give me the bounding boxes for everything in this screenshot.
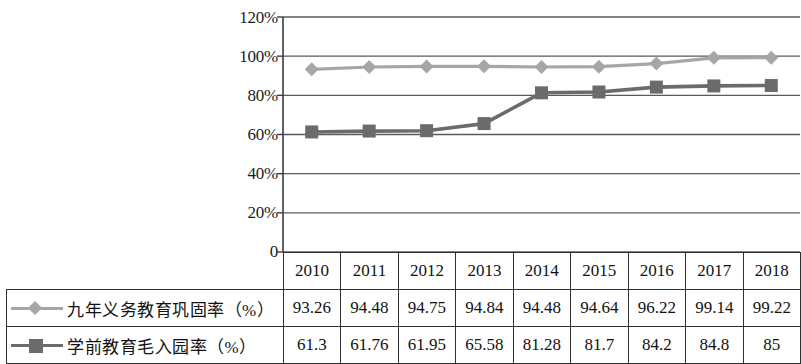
table-year-header: 2015 xyxy=(571,253,628,290)
data-point-square xyxy=(707,79,720,92)
data-point-diamond xyxy=(420,59,434,73)
legend-square-marker-icon xyxy=(11,336,63,354)
table-row: 学前教育毛入园率（%） 61.3 61.76 61.95 65.58 81.28… xyxy=(7,327,801,364)
data-point-diamond xyxy=(535,60,549,74)
table-cell-value: 94.84 xyxy=(456,290,513,327)
data-point-diamond xyxy=(649,57,663,71)
gridlines-group xyxy=(283,17,800,252)
data-point-square xyxy=(363,125,376,138)
data-point-diamond xyxy=(362,60,376,74)
table-cell-value: 85 xyxy=(743,327,801,364)
legend-diamond-marker-icon xyxy=(11,299,63,317)
data-point-diamond xyxy=(707,51,721,65)
table-cell-value: 99.22 xyxy=(743,290,801,327)
data-point-square xyxy=(765,79,778,92)
data-point-square xyxy=(478,117,491,130)
table-year-header: 2011 xyxy=(341,253,398,290)
data-point-diamond xyxy=(764,51,778,65)
table-cell-value: 61.76 xyxy=(341,327,398,364)
data-point-diamond xyxy=(592,60,606,74)
table-year-header: 2018 xyxy=(743,253,801,290)
table-cell-value: 81.7 xyxy=(571,327,628,364)
chart-plot-area: 120% 100% 80% 60% 40% 20% 0 xyxy=(0,0,801,258)
data-point-square xyxy=(305,125,318,138)
table-header-row: 2010 2011 2012 2013 2014 2015 2016 2017 … xyxy=(7,253,801,290)
data-point-diamond xyxy=(305,62,319,76)
table-year-header: 2017 xyxy=(686,253,743,290)
series-markers-group xyxy=(305,51,779,139)
table-cell-value: 84.2 xyxy=(628,327,685,364)
data-point-diamond xyxy=(477,59,491,73)
data-point-square xyxy=(535,86,548,99)
table-cell-value: 94.75 xyxy=(398,290,455,327)
series-label-1: 九年义务教育巩固率（%） xyxy=(67,296,274,321)
table-cell-value: 81.28 xyxy=(513,327,570,364)
table-cell-value: 61.3 xyxy=(283,327,340,364)
data-point-square xyxy=(592,86,605,99)
axis-group xyxy=(277,17,283,252)
table-cell-value: 61.95 xyxy=(398,327,455,364)
table-year-header: 2012 xyxy=(398,253,455,290)
table-year-header: 2010 xyxy=(283,253,340,290)
chart-data-table: 2010 2011 2012 2013 2014 2015 2016 2017 … xyxy=(6,252,801,364)
series-label-2: 学前教育毛入园率（%） xyxy=(67,333,257,358)
table-year-header: 2013 xyxy=(456,253,513,290)
table-cell-value: 93.26 xyxy=(283,290,340,327)
series-legend-cell-2: 学前教育毛入园率（%） xyxy=(7,327,284,364)
table-cell-value: 94.48 xyxy=(513,290,570,327)
table-corner-cell xyxy=(7,253,284,290)
table-year-header: 2014 xyxy=(513,253,570,290)
data-point-square xyxy=(650,81,663,94)
table-cell-value: 99.14 xyxy=(686,290,743,327)
table-cell-value: 96.22 xyxy=(628,290,685,327)
table-cell-value: 84.8 xyxy=(686,327,743,364)
table-cell-value: 65.58 xyxy=(456,327,513,364)
table-cell-value: 94.48 xyxy=(341,290,398,327)
line-chart-svg xyxy=(0,0,801,258)
square-icon xyxy=(29,339,43,353)
diamond-icon xyxy=(28,300,42,314)
table-year-header: 2016 xyxy=(628,253,685,290)
table-row: 九年义务教育巩固率（%） 93.26 94.48 94.75 94.84 94.… xyxy=(7,290,801,327)
table-cell-value: 94.64 xyxy=(571,290,628,327)
data-point-square xyxy=(420,124,433,137)
series-legend-cell-1: 九年义务教育巩固率（%） xyxy=(7,290,284,327)
